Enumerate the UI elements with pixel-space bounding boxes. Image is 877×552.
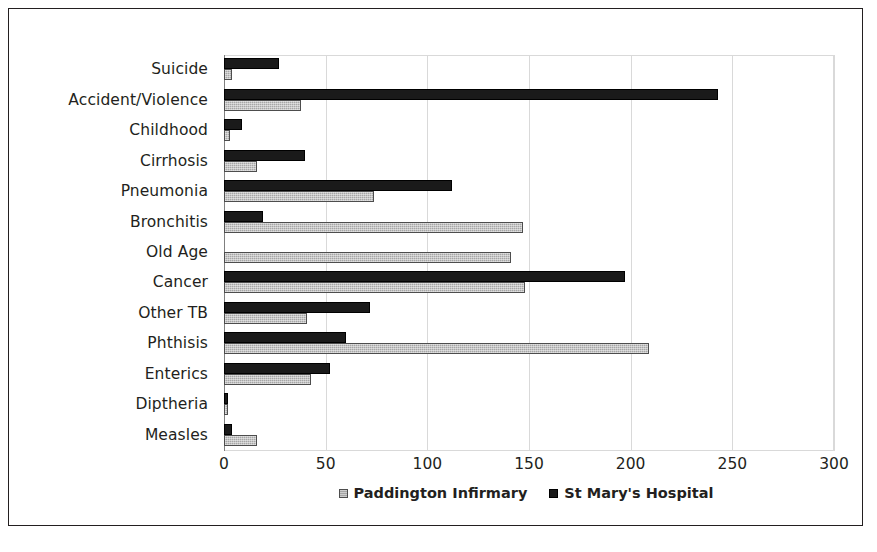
chart-page: SuicideAccident/ViolenceChildhoodCirrhos… bbox=[0, 0, 877, 552]
chart-category-row: Childhood bbox=[216, 116, 836, 146]
bar-st-marys-hospital bbox=[224, 424, 232, 435]
x-tick-label: 50 bbox=[316, 455, 336, 473]
bar-st-marys-hospital bbox=[224, 150, 305, 161]
legend-swatch-icon bbox=[549, 489, 558, 498]
bar-st-marys-hospital bbox=[224, 211, 263, 222]
category-label: Pneumonia bbox=[121, 182, 208, 200]
bar-st-marys-hospital bbox=[224, 363, 330, 374]
legend-swatch-icon bbox=[339, 489, 348, 498]
bar-paddington-infirmary bbox=[224, 130, 230, 141]
bar-paddington-infirmary bbox=[224, 435, 257, 446]
chart-category-row: Measles bbox=[216, 421, 836, 451]
chart-legend: Paddington Infirmary St Mary's Hospital bbox=[216, 485, 836, 501]
chart-category-row: Enterics bbox=[216, 360, 836, 390]
x-tick-label: 150 bbox=[514, 455, 544, 473]
bar-st-marys-hospital bbox=[224, 271, 625, 282]
category-label: Accident/Violence bbox=[68, 91, 208, 109]
bar-paddington-infirmary bbox=[224, 69, 232, 80]
bar-paddington-infirmary bbox=[224, 404, 228, 415]
bar-st-marys-hospital bbox=[224, 119, 242, 130]
bar-st-marys-hospital bbox=[224, 332, 346, 343]
chart-category-row: Bronchitis bbox=[216, 207, 836, 237]
x-tick-label: 200 bbox=[616, 455, 646, 473]
bar-st-marys-hospital bbox=[224, 89, 718, 100]
legend-item-st-marys-hospital: St Mary's Hospital bbox=[549, 485, 713, 501]
bar-paddington-infirmary bbox=[224, 100, 301, 111]
bar-st-marys-hospital bbox=[224, 180, 452, 191]
category-label: Suicide bbox=[151, 60, 208, 78]
category-label: Childhood bbox=[129, 121, 208, 139]
chart-category-row: Old Age bbox=[216, 238, 836, 268]
chart-category-row: Pneumonia bbox=[216, 177, 836, 207]
category-label: Bronchitis bbox=[130, 213, 208, 231]
bar-st-marys-hospital bbox=[224, 58, 279, 69]
x-tick-label: 250 bbox=[718, 455, 748, 473]
x-tick-label: 300 bbox=[819, 455, 849, 473]
legend-label: St Mary's Hospital bbox=[564, 485, 713, 501]
bar-paddington-infirmary bbox=[224, 313, 307, 324]
bar-paddington-infirmary bbox=[224, 161, 257, 172]
chart-category-row: Other TB bbox=[216, 299, 836, 329]
bar-paddington-infirmary bbox=[224, 252, 511, 263]
category-label: Enterics bbox=[145, 365, 208, 383]
category-label: Phthisis bbox=[147, 334, 208, 352]
bar-paddington-infirmary bbox=[224, 374, 311, 385]
chart-category-row: Cancer bbox=[216, 268, 836, 298]
x-tick-label: 0 bbox=[219, 455, 229, 473]
category-label: Measles bbox=[145, 426, 208, 444]
legend-label: Paddington Infirmary bbox=[354, 485, 528, 501]
chart-category-row: Phthisis bbox=[216, 329, 836, 359]
category-label: Cancer bbox=[153, 273, 208, 291]
category-label: Other TB bbox=[138, 304, 208, 322]
legend-item-paddington-infirmary: Paddington Infirmary bbox=[339, 485, 528, 501]
x-tick-label: 100 bbox=[413, 455, 443, 473]
bar-st-marys-hospital bbox=[224, 393, 228, 404]
category-label: Old Age bbox=[146, 243, 208, 261]
chart-category-row: Accident/Violence bbox=[216, 85, 836, 115]
bar-chart: SuicideAccident/ViolenceChildhoodCirrhos… bbox=[216, 53, 836, 453]
bar-paddington-infirmary bbox=[224, 191, 374, 202]
category-label: Diptheria bbox=[135, 395, 208, 413]
bar-paddington-infirmary bbox=[224, 222, 523, 233]
bar-st-marys-hospital bbox=[224, 302, 370, 313]
figure-frame: SuicideAccident/ViolenceChildhoodCirrhos… bbox=[8, 8, 863, 526]
bar-paddington-infirmary bbox=[224, 282, 525, 293]
chart-category-row: Suicide bbox=[216, 55, 836, 85]
category-label: Cirrhosis bbox=[140, 152, 208, 170]
chart-category-row: Cirrhosis bbox=[216, 146, 836, 176]
chart-category-row: Diptheria bbox=[216, 390, 836, 420]
bar-paddington-infirmary bbox=[224, 343, 649, 354]
